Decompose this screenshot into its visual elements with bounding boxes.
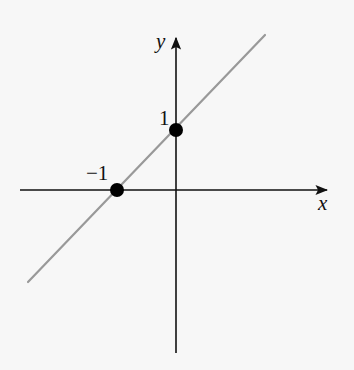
function-line [28,35,265,282]
y-axis-label: y [154,29,166,53]
x-intercept-point [110,183,124,197]
graph: x y −1 1 [0,0,354,370]
y-intercept-point [169,123,183,137]
x-intercept-label: −1 [86,161,108,185]
x-axis-label: x [317,191,328,215]
y-intercept-label: 1 [159,106,170,130]
